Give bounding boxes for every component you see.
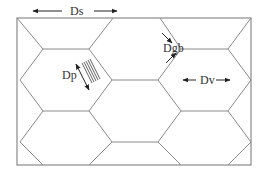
ds-annotation: Ds <box>33 4 117 18</box>
dgb-label: Dgb <box>163 41 184 55</box>
specimen-frame <box>17 18 251 165</box>
dp-annotation: Dp <box>62 59 100 90</box>
lamellae-hatch-icon <box>82 59 100 83</box>
dv-annotation: Dv <box>183 73 230 87</box>
ds-label: Ds <box>70 4 84 18</box>
grain-structure-diagram: Ds Dp Dgb Dv <box>0 0 263 180</box>
dv-label: Dv <box>200 73 215 87</box>
grain-boundaries <box>17 18 251 165</box>
dp-label: Dp <box>62 68 77 82</box>
